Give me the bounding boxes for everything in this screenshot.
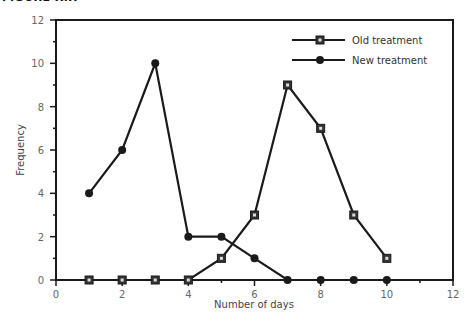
x-tick-label: 2	[119, 289, 125, 300]
y-tick-label: 6	[38, 145, 44, 156]
legend-item: Old treatment	[292, 35, 422, 46]
y-tick-label: 8	[38, 102, 44, 113]
y-tick-label: 2	[38, 232, 44, 243]
legend-label: New treatment	[352, 55, 427, 66]
legend: Old treatmentNew treatment	[292, 35, 427, 66]
y-tick-label: 12	[31, 15, 44, 26]
y-tick-label: 10	[31, 58, 44, 69]
x-tick-label: 12	[447, 289, 460, 300]
legend-item: New treatment	[292, 55, 427, 66]
line-chart: 024681012 024681012 Old treatmentNew tre…	[0, 0, 466, 324]
legend-label: Old treatment	[352, 35, 422, 46]
x-tick-label: 4	[185, 289, 191, 300]
y-axis: 024681012	[31, 15, 56, 286]
x-axis-label: Number of days	[214, 299, 294, 310]
series-old-treatment	[85, 81, 391, 284]
x-tick-label: 10	[380, 289, 393, 300]
y-axis-label: Frequency	[15, 124, 26, 176]
data-series	[85, 59, 391, 284]
x-tick-label: 0	[53, 289, 59, 300]
x-axis: 024681012	[53, 280, 460, 300]
y-tick-label: 0	[38, 275, 44, 286]
x-tick-label: 8	[317, 289, 323, 300]
series-new-treatment	[85, 59, 391, 284]
y-tick-label: 4	[38, 188, 44, 199]
